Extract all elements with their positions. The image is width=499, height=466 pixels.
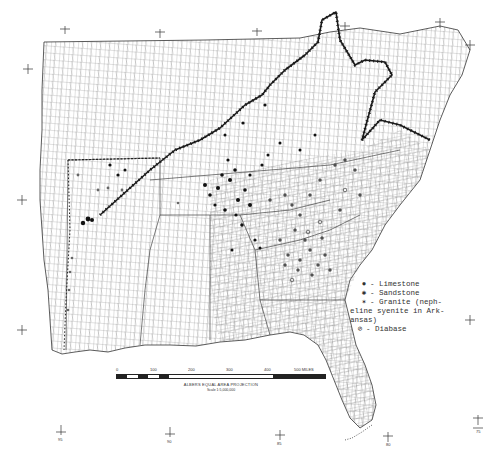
legend-row-granite: ✶- Granite (neph-	[360, 298, 445, 307]
scale-tick-100: 100	[150, 367, 157, 372]
scale-bar: 0 100 200 300 400 500 MILES ALBERS EQUAL…	[116, 367, 326, 392]
scale-ticks: 0 100 200 300 400 500 MILES	[116, 367, 326, 373]
graticule-label-85: 85	[277, 441, 282, 446]
florida-keys	[345, 425, 372, 440]
filled-circle-icon: ●	[360, 280, 368, 289]
granite-symbol-icon: ✶	[360, 298, 368, 307]
legend-row-diabase: ⊘- Diabase	[356, 325, 445, 334]
legend-row-granite-cont2: ansas)	[350, 316, 445, 325]
scale-tick-0: 0	[116, 367, 118, 372]
sandstone-symbol-icon: ✱	[360, 289, 368, 298]
graticule-label-75: 75	[476, 429, 481, 434]
scale-bar-graphic	[116, 374, 326, 379]
map-legend: ●- Limestone ✱- Sandstone ✶- Granite (ne…	[360, 280, 445, 334]
diabase-symbol-icon: ⊘	[356, 325, 364, 334]
graticule-label-95: 95	[58, 437, 63, 442]
legend-row-granite-cont1: eline syenite in Ark-	[350, 307, 445, 316]
scale-tick-200: 200	[188, 367, 195, 372]
scale-caption: Scale 1:5,000,000	[116, 388, 326, 392]
map-canvas: 95 90 85 80 75	[0, 0, 499, 466]
graticule-label-90: 90	[167, 439, 172, 444]
scale-tick-300: 300	[226, 367, 233, 372]
scale-tick-400: 400	[264, 367, 271, 372]
scale-tick-500: 500 MILES	[294, 367, 314, 372]
legend-row-sandstone: ✱- Sandstone	[360, 289, 445, 298]
legend-row-limestone: ●- Limestone	[360, 280, 445, 289]
projection-caption: ALBERS EQUAL AREA PROJECTION	[116, 382, 326, 387]
graticule-label-80: 80	[386, 442, 391, 447]
